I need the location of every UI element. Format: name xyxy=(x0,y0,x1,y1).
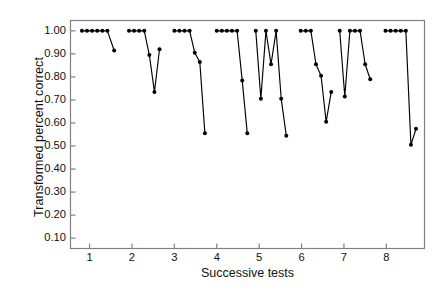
data-point xyxy=(343,95,347,99)
figure-container: Transformed percent correct Successive t… xyxy=(0,0,439,303)
data-point xyxy=(363,62,367,66)
y-tick-label: 0.90 xyxy=(32,48,66,59)
y-tick-label: 0.60 xyxy=(32,117,66,128)
data-point xyxy=(404,29,408,33)
data-point xyxy=(112,48,116,52)
x-axis-ticks xyxy=(90,244,387,249)
data-series xyxy=(299,29,334,124)
data-point xyxy=(259,97,263,101)
data-point xyxy=(230,29,234,33)
data-point xyxy=(309,29,313,33)
x-tick-label: 5 xyxy=(244,251,274,263)
data-point xyxy=(152,90,156,94)
y-tick-label: 0.70 xyxy=(32,94,66,105)
data-point xyxy=(299,29,303,33)
x-tick-label: 2 xyxy=(117,251,147,263)
data-point xyxy=(348,29,352,33)
y-tick-label: 0.10 xyxy=(32,232,66,243)
data-point xyxy=(368,77,372,81)
data-series xyxy=(215,29,250,135)
data-point xyxy=(269,62,273,66)
data-point xyxy=(132,29,136,33)
data-series-group xyxy=(80,29,418,147)
data-point xyxy=(358,29,362,33)
data-point xyxy=(409,143,413,147)
data-series xyxy=(127,29,162,94)
data-point xyxy=(215,29,219,33)
x-tick-label: 6 xyxy=(287,251,317,263)
data-point xyxy=(353,29,357,33)
data-point xyxy=(394,29,398,33)
data-point xyxy=(137,29,141,33)
x-tick-label: 8 xyxy=(371,251,401,263)
data-point xyxy=(414,127,418,131)
data-point xyxy=(90,29,94,33)
y-tick-label: 0.30 xyxy=(32,186,66,197)
data-point xyxy=(183,29,187,33)
data-point xyxy=(147,53,151,57)
data-point xyxy=(177,29,181,33)
data-point xyxy=(324,120,328,124)
y-tick-label: 0.20 xyxy=(32,209,66,220)
y-axis-ticks xyxy=(71,31,76,238)
data-point xyxy=(225,29,229,33)
data-point xyxy=(254,29,258,33)
data-point xyxy=(338,29,342,33)
y-tick-label: 0.50 xyxy=(32,140,66,151)
y-tick-label: 0.40 xyxy=(32,163,66,174)
data-point xyxy=(264,29,268,33)
x-tick-label: 3 xyxy=(159,251,189,263)
data-series xyxy=(172,29,207,135)
data-point xyxy=(240,78,244,82)
data-point xyxy=(142,29,146,33)
data-point xyxy=(80,29,84,33)
data-point xyxy=(100,29,104,33)
y-tick-label: 1.00 xyxy=(32,25,66,36)
data-point xyxy=(319,74,323,78)
data-point xyxy=(85,29,89,33)
data-point xyxy=(329,90,333,94)
data-point xyxy=(220,29,224,33)
x-axis-label: Successive tests xyxy=(70,266,425,280)
data-point xyxy=(158,47,162,51)
data-series xyxy=(254,29,289,138)
data-point xyxy=(314,62,318,66)
data-point xyxy=(188,29,192,33)
x-tick-label: 4 xyxy=(202,251,232,263)
x-tick-label: 1 xyxy=(75,251,105,263)
x-tick-label: 7 xyxy=(329,251,359,263)
data-point xyxy=(105,29,109,33)
data-point xyxy=(198,60,202,64)
data-point xyxy=(193,51,197,55)
data-point xyxy=(245,131,249,135)
y-tick-label: 0.80 xyxy=(32,71,66,82)
data-point xyxy=(389,29,393,33)
data-point xyxy=(95,29,99,33)
data-point xyxy=(284,134,288,138)
data-point xyxy=(127,29,131,33)
data-point xyxy=(304,29,308,33)
data-point xyxy=(203,131,207,135)
data-series xyxy=(384,29,419,147)
data-point xyxy=(279,97,283,101)
data-point xyxy=(172,29,176,33)
data-point xyxy=(235,29,239,33)
data-series xyxy=(80,29,116,53)
data-point xyxy=(399,29,403,33)
y-axis-tick-labels: 0.100.200.300.400.500.600.700.800.901.00 xyxy=(30,0,66,303)
data-series xyxy=(338,29,373,99)
data-point xyxy=(274,29,278,33)
data-point xyxy=(384,29,388,33)
